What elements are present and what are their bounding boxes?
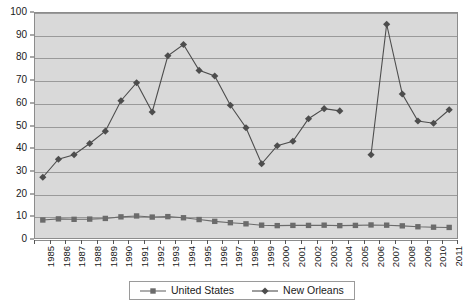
x-tick-label: 2003 — [329, 246, 339, 267]
x-tick-mark — [364, 240, 365, 244]
x-tick-label: 2000 — [281, 246, 291, 267]
y-tick-label: 40 — [16, 143, 27, 153]
data-point — [196, 217, 201, 222]
data-point — [134, 213, 139, 218]
y-tick-label: 70 — [16, 75, 27, 85]
data-point — [243, 221, 248, 226]
data-point — [149, 108, 156, 115]
x-tick-mark — [285, 240, 286, 244]
data-point — [40, 217, 45, 222]
data-point — [71, 217, 76, 222]
data-point — [337, 223, 342, 228]
series-new-orleans — [39, 21, 453, 181]
series-line — [43, 45, 340, 178]
series-line — [371, 24, 449, 155]
data-point — [400, 223, 405, 228]
x-tick-label: 1991 — [140, 246, 150, 267]
y-tick-label: 0 — [21, 234, 27, 244]
data-point — [212, 219, 217, 224]
x-tick-mark — [411, 240, 412, 244]
legend-marker-square-icon — [140, 286, 166, 296]
legend-label: United States — [171, 285, 234, 296]
data-point — [290, 223, 295, 228]
data-point — [275, 223, 280, 228]
data-point — [180, 41, 187, 48]
x-tick-label: 1994 — [187, 246, 197, 267]
x-tick-label: 1993 — [171, 246, 181, 267]
data-point — [118, 214, 123, 219]
x-tick-label: 2007 — [391, 246, 401, 267]
data-point — [259, 222, 264, 227]
y-tick-label: 30 — [16, 166, 27, 176]
x-tick-label: 2006 — [376, 246, 386, 267]
x-tick-label: 2001 — [297, 246, 307, 267]
x-tick-mark — [97, 240, 98, 244]
x-tick-mark — [317, 240, 318, 244]
y-axis: 0102030405060708090100 — [0, 0, 34, 251]
data-point — [87, 216, 92, 221]
x-tick-label: 2008 — [407, 246, 417, 267]
x-tick-label: 2011 — [454, 246, 464, 266]
chart-legend: United StatesNew Orleans — [129, 281, 355, 300]
data-point — [56, 216, 61, 221]
x-tick-mark — [81, 240, 82, 244]
x-tick-mark — [254, 240, 255, 244]
x-tick-mark — [270, 240, 271, 244]
plot-area — [34, 12, 458, 239]
x-tick-mark — [238, 240, 239, 244]
y-tick-label: 90 — [16, 30, 27, 40]
x-tick-mark — [348, 240, 349, 244]
x-tick-mark — [222, 240, 223, 244]
data-point — [289, 138, 296, 145]
x-tick-mark — [160, 240, 161, 244]
x-tick-mark — [191, 240, 192, 244]
x-tick-mark — [301, 240, 302, 244]
x-tick-label: 1992 — [156, 246, 166, 267]
x-tick-label: 2005 — [360, 246, 370, 267]
x-tick-label: 2004 — [344, 246, 354, 267]
x-tick-mark — [175, 240, 176, 244]
series-united-states — [40, 213, 452, 230]
data-point — [431, 225, 436, 230]
data-point — [305, 115, 312, 122]
x-tick-label: 1996 — [219, 246, 229, 267]
x-tick-mark — [113, 240, 114, 244]
x-tick-mark — [128, 240, 129, 244]
data-point — [399, 90, 406, 97]
data-point — [164, 52, 171, 59]
data-point — [321, 105, 328, 112]
data-point — [165, 214, 170, 219]
x-tick-label: 1990 — [124, 246, 134, 267]
data-point — [446, 225, 451, 230]
data-point — [368, 222, 373, 227]
data-point — [415, 224, 420, 229]
series-layer — [35, 13, 457, 238]
x-tick-label: 1998 — [250, 246, 260, 267]
data-point — [227, 102, 234, 109]
data-point — [211, 72, 218, 79]
y-tick-label: 10 — [16, 211, 27, 221]
x-tick-label: 1987 — [77, 246, 87, 267]
x-tick-mark — [207, 240, 208, 244]
data-point — [306, 223, 311, 228]
line-chart-figure: 0102030405060708090100 19851986198719881… — [0, 0, 465, 304]
x-tick-mark — [144, 240, 145, 244]
x-tick-mark — [427, 240, 428, 244]
legend-label: New Orleans — [283, 285, 344, 296]
data-point — [70, 151, 77, 158]
x-tick-label: 1988 — [93, 246, 103, 267]
legend-entry[interactable]: New Orleans — [252, 285, 344, 296]
data-point — [103, 216, 108, 221]
x-tick-label: 1986 — [62, 246, 72, 267]
y-tick-label: 50 — [16, 121, 27, 131]
x-tick-label: 2010 — [438, 246, 448, 267]
data-point — [367, 151, 374, 158]
legend-entry[interactable]: United States — [140, 285, 234, 296]
data-point — [414, 117, 421, 124]
data-point — [384, 222, 389, 227]
x-tick-label: 2002 — [313, 246, 323, 267]
y-tick-label: 80 — [16, 52, 27, 62]
x-tick-mark — [379, 240, 380, 244]
x-tick-mark — [34, 240, 35, 244]
x-tick-mark — [65, 240, 66, 244]
